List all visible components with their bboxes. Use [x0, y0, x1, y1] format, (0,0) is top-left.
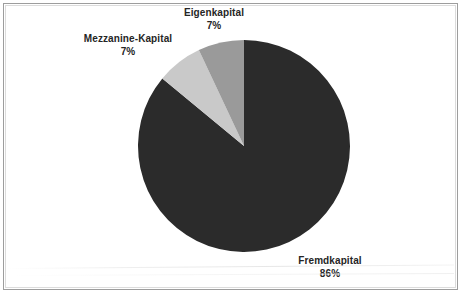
pie-label-mezzanine-kapital-name: Mezzanine-Kapital	[68, 32, 188, 45]
pie-label-eigenkapital-name: Eigenkapital	[154, 6, 274, 19]
pie-slices-group	[138, 40, 350, 252]
pie-label-eigenkapital: Eigenkapital 7%	[154, 6, 274, 32]
pie-label-fremdkapital: Fremdkapital 86%	[270, 254, 390, 280]
chart-screenshot: Eigenkapital 7% Mezzanine-Kapital 7% Fre…	[0, 0, 462, 294]
pie-chart-plot-area: Eigenkapital 7% Mezzanine-Kapital 7% Fre…	[0, 0, 462, 294]
pie-label-mezzanine-kapital: Mezzanine-Kapital 7%	[68, 32, 188, 58]
pie-label-eigenkapital-value: 7%	[154, 19, 274, 32]
pie-label-fremdkapital-name: Fremdkapital	[270, 254, 390, 267]
pie-label-mezzanine-kapital-value: 7%	[68, 45, 188, 58]
pie-label-fremdkapital-value: 86%	[270, 267, 390, 280]
